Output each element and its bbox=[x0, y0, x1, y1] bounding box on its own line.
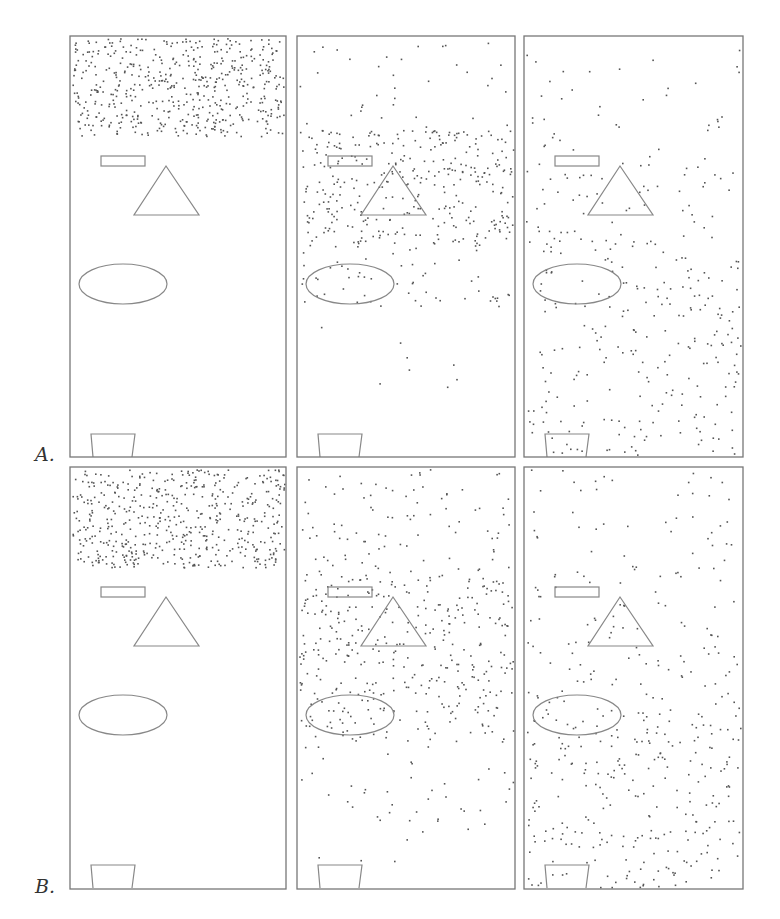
particle bbox=[445, 508, 447, 510]
particle bbox=[132, 116, 134, 118]
particle bbox=[499, 617, 501, 619]
particle bbox=[735, 715, 737, 717]
particle bbox=[159, 56, 161, 58]
particle bbox=[663, 282, 665, 284]
particle bbox=[183, 130, 185, 132]
particle bbox=[227, 496, 229, 498]
particle bbox=[651, 830, 653, 832]
particle bbox=[508, 524, 510, 526]
particle bbox=[308, 479, 310, 481]
particle bbox=[271, 48, 273, 50]
particle bbox=[656, 806, 658, 808]
particle bbox=[658, 886, 660, 888]
particle bbox=[493, 551, 495, 553]
particle bbox=[174, 516, 176, 518]
particle bbox=[532, 117, 534, 119]
particle bbox=[330, 196, 332, 198]
particle bbox=[266, 491, 268, 493]
particle bbox=[91, 62, 93, 64]
particle bbox=[161, 59, 163, 61]
particle bbox=[508, 601, 510, 603]
particle bbox=[205, 77, 207, 79]
particle bbox=[546, 709, 548, 711]
particle bbox=[434, 130, 436, 132]
particle bbox=[197, 122, 199, 124]
particle bbox=[190, 94, 192, 96]
particle bbox=[338, 613, 340, 615]
particle bbox=[646, 694, 648, 696]
particle bbox=[583, 422, 585, 424]
particle bbox=[181, 470, 183, 472]
particle bbox=[591, 551, 593, 553]
particle bbox=[253, 525, 255, 527]
particle bbox=[681, 622, 683, 624]
particle bbox=[185, 39, 187, 41]
particle bbox=[338, 702, 340, 704]
particle bbox=[342, 488, 344, 490]
particle bbox=[544, 840, 546, 842]
particle bbox=[215, 498, 217, 500]
particle bbox=[195, 554, 197, 556]
particle bbox=[272, 516, 274, 518]
particle bbox=[166, 41, 168, 43]
particle bbox=[486, 671, 488, 673]
particle bbox=[487, 530, 489, 532]
particle bbox=[227, 74, 229, 76]
particle bbox=[222, 119, 224, 121]
particle bbox=[544, 311, 546, 313]
particle bbox=[370, 495, 372, 497]
particle bbox=[477, 613, 479, 615]
particle bbox=[585, 816, 587, 818]
particle bbox=[605, 240, 607, 242]
particle bbox=[92, 525, 94, 527]
particle bbox=[96, 84, 98, 86]
particle bbox=[502, 217, 504, 219]
particle bbox=[360, 860, 362, 862]
particle bbox=[212, 96, 214, 98]
particle bbox=[311, 240, 313, 242]
particle bbox=[550, 178, 552, 180]
particle bbox=[378, 231, 380, 233]
particle bbox=[110, 94, 112, 96]
particle bbox=[589, 71, 591, 73]
rectangle-obstacle bbox=[555, 587, 599, 597]
particle bbox=[483, 703, 485, 705]
particle bbox=[653, 853, 655, 855]
particle bbox=[585, 769, 587, 771]
particle bbox=[412, 130, 414, 132]
particle bbox=[640, 868, 642, 870]
particle bbox=[117, 486, 119, 488]
particle bbox=[164, 481, 166, 483]
particle bbox=[126, 511, 128, 513]
particle bbox=[81, 78, 83, 80]
particle bbox=[438, 604, 440, 606]
particle bbox=[437, 820, 439, 822]
particle bbox=[209, 112, 211, 114]
particle bbox=[184, 535, 186, 537]
particle bbox=[238, 84, 240, 86]
particle bbox=[571, 89, 573, 91]
particle bbox=[361, 700, 363, 702]
particle bbox=[134, 84, 136, 86]
particle bbox=[383, 708, 385, 710]
particle bbox=[692, 493, 694, 495]
particle bbox=[495, 163, 497, 165]
particle bbox=[640, 429, 642, 431]
particle bbox=[276, 550, 278, 552]
particle bbox=[573, 405, 575, 407]
particle bbox=[345, 559, 347, 561]
particle bbox=[470, 732, 472, 734]
particle bbox=[738, 373, 740, 375]
particle bbox=[529, 851, 531, 853]
particle bbox=[206, 134, 208, 136]
particle bbox=[213, 43, 215, 45]
particle bbox=[409, 249, 411, 251]
particle bbox=[94, 103, 96, 105]
particle bbox=[593, 822, 595, 824]
particle bbox=[162, 101, 164, 103]
particle bbox=[252, 532, 254, 534]
particle bbox=[563, 701, 565, 703]
particle bbox=[328, 133, 330, 135]
particle bbox=[193, 482, 195, 484]
particle bbox=[658, 870, 660, 872]
